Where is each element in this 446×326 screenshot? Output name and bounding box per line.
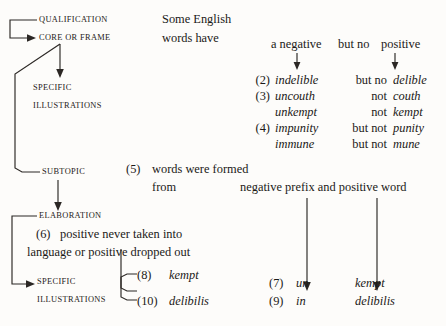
- example-connector: not: [337, 106, 387, 118]
- example-positive: delible: [393, 74, 427, 86]
- middle-num: (5): [126, 163, 140, 175]
- node-core-or-frame: CORE OR FRAME: [39, 34, 111, 42]
- positive-header-arrowhead: [392, 62, 399, 70]
- elaboration-line-1: positive never taken into: [60, 228, 182, 240]
- prefix-word: in: [296, 295, 306, 307]
- node-subtopic: SUBTOPIC: [42, 168, 85, 176]
- node-elaboration: ELABORATION: [39, 212, 101, 220]
- specific-bottom-arrowhead: [26, 280, 35, 288]
- illustration-num: (10): [137, 295, 158, 307]
- middle-line-1: words were formed: [152, 163, 248, 175]
- example-num: (4): [248, 122, 270, 134]
- formation-phrase: negative prefix and positive word: [240, 181, 407, 193]
- node-specific-bottom-line2: ILLUSTRATIONS: [37, 296, 106, 304]
- header-negative: a negative: [271, 38, 322, 50]
- specific-arrowhead: [56, 69, 64, 78]
- prefix-num: (9): [269, 295, 283, 307]
- split-to-8-line: [121, 274, 137, 288]
- intro-line-2: words have: [162, 32, 219, 44]
- prefix-word: un: [296, 277, 308, 289]
- example-num: (3): [248, 90, 270, 102]
- example-negative: immune: [275, 138, 314, 150]
- example-positive: punity: [393, 122, 424, 134]
- example-connector: but not: [332, 138, 387, 150]
- positive-word: kempt: [355, 277, 385, 289]
- example-connector: but no: [337, 74, 387, 86]
- elaboration-arrowhead: [54, 202, 62, 211]
- node-specific-bottom-line1: SPECIFIC: [37, 278, 76, 286]
- elaboration-line-2: language or positive dropped out: [27, 246, 190, 258]
- header-conjunction: but no: [338, 38, 369, 50]
- node-specific-top-line2: ILLUSTRATIONS: [33, 102, 102, 110]
- example-connector: not: [337, 90, 387, 102]
- example-positive: couth: [393, 90, 421, 102]
- node-qualification: QUALIFICATION: [39, 16, 108, 24]
- diagram-canvas: QUALIFICATION CORE OR FRAME SPECIFIC ILL…: [0, 0, 446, 326]
- example-negative: uncouth: [275, 90, 315, 102]
- negative-header-arrowhead: [294, 62, 301, 70]
- illustration-word: kempt: [169, 269, 199, 281]
- prefix-num: (7): [269, 277, 283, 289]
- positive-word: delibilis: [355, 295, 395, 307]
- example-negative: unkempt: [275, 106, 317, 118]
- illustration-num: (8): [137, 269, 151, 281]
- middle-line-2: from: [152, 181, 176, 193]
- core-arrowhead: [27, 34, 36, 42]
- example-positive: mune: [393, 138, 420, 150]
- elaboration-num: (6): [36, 228, 50, 240]
- illustration-word: delibilis: [169, 295, 209, 307]
- example-connector: but not: [332, 122, 387, 134]
- node-specific-top-line1: SPECIFIC: [33, 84, 72, 92]
- example-negative: indelible: [275, 74, 318, 86]
- example-num: (2): [248, 74, 270, 86]
- header-positive: positive: [381, 38, 420, 50]
- example-positive: kempt: [393, 106, 423, 118]
- intro-line-1: Some English: [162, 13, 231, 25]
- qualification-to-core-line: [10, 20, 37, 38]
- example-negative: impunity: [275, 122, 318, 134]
